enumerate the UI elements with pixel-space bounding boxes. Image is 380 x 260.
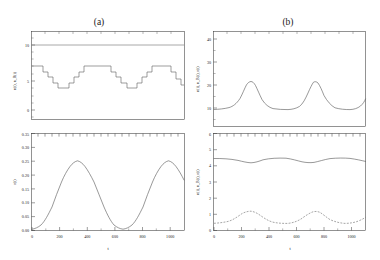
panel-a-bottom-ytick-4: 0.20	[22, 173, 29, 178]
panel-b-bottom-ytick-5: 5	[209, 147, 211, 152]
panel-a-bottom-yticks: 0.00 0.05 0.10 0.15 0.20 0.25 0.30 0.35	[22, 132, 35, 233]
panel-a-top-series-n	[32, 66, 184, 88]
panel-b-xtick-200: 200	[238, 234, 244, 239]
panel-b-bottom-ytick-6: 6	[209, 132, 211, 137]
panel-a-top-edge-ticks	[45, 32, 171, 35]
panel-a-bottom-series-r	[32, 161, 184, 229]
panel-b-bottom-series-upper	[214, 158, 366, 163]
panel-b-bottom-subplot: 0 1 2 3 4 5 6	[209, 132, 366, 239]
panel-b-bottom-ytick-0: 0	[209, 228, 211, 233]
panel-b-bottom-series-lower	[214, 211, 366, 223]
panel-a-bottom-ytick-7: 0.35	[22, 132, 29, 137]
panel-b-bottom-ytick-2: 2	[209, 196, 211, 201]
panel-a-top-ytick-0: 0	[27, 108, 29, 113]
panel-a-top-frame	[32, 32, 185, 120]
panel-a-top-ytick-5: 5	[27, 79, 29, 84]
panel-a-top-ytick-10: 10	[25, 43, 29, 48]
panel-a-bottom-ytick-2: 0.10	[22, 200, 29, 205]
multi-panel-plot: (a) 10 5 0	[0, 0, 380, 260]
panel-a-bottom-ytick-6: 0.30	[22, 145, 29, 150]
panel-b-xlabel: t	[289, 246, 291, 251]
panel-b-top-subplot: 40 30 20 10	[207, 32, 366, 127]
panel-b-top-series-n	[214, 82, 366, 110]
panel-b-xtick-600: 600	[293, 234, 299, 239]
panel-a-bottom-subplot: 0.00 0.05 0.10 0.15 0.20 0.25 0.30 0.35	[22, 132, 185, 239]
panel-a-bottom-top-edge-ticks	[38, 134, 178, 137]
panel-a-xtick-800: 800	[139, 234, 145, 239]
panel-a-bottom-xticks: 0 200 400 600 800 1000	[31, 227, 174, 239]
panel-b-top-ytick-40: 40	[207, 37, 211, 42]
panel-a-bottom-ylabel: r(t)	[12, 179, 17, 185]
panel-a-bottom-ytick-0: 0.00	[22, 228, 29, 233]
panel-b-top-frame	[214, 32, 366, 127]
panel-a-xtick-0: 0	[31, 234, 33, 239]
panel-b-bottom-ytick-3: 3	[209, 180, 211, 185]
panel-a-bottom-ytick-5: 0.25	[22, 159, 29, 164]
panel-b-top-edge-ticks	[227, 32, 353, 35]
panel-a-title: (a)	[94, 17, 105, 28]
panel-a-xtick-400: 400	[84, 234, 90, 239]
panel-b-bottom-ytick-4: 4	[209, 163, 211, 168]
panel-b-top-yticks: 40 30 20 10	[207, 37, 217, 120]
panel-b-title: (b)	[282, 17, 293, 28]
panel-b-bottom-ytick-1: 1	[209, 212, 211, 217]
panel-b-xtick-0: 0	[213, 234, 215, 239]
panel-b-top-ytick-20: 20	[207, 83, 211, 88]
panel-a-bottom-ytick-3: 0.15	[22, 187, 29, 192]
panel-b-bottom-ylabel: n(t), n_B(t), r(t)	[195, 169, 201, 195]
panel-a-top-subplot: 10 5 0	[25, 32, 185, 120]
panel-b-top-ytick-10: 10	[207, 106, 211, 111]
panel-a-xtick-600: 600	[112, 234, 118, 239]
panel-b-xtick-800: 800	[321, 234, 327, 239]
panel-a-top-ylabel: n(t), n_B(t)	[12, 71, 18, 90]
panel-b-bottom-yticks: 0 1 2 3 4 5 6	[209, 132, 217, 233]
panel-b-top-ytick-30: 30	[207, 60, 211, 65]
panel-b-bottom-xticks: 0 200 400 600 800 1000	[213, 227, 356, 239]
figure-container: (a) 10 5 0	[0, 0, 380, 260]
panel-a-bottom-ytick-1: 0.05	[22, 214, 29, 219]
panel-a-xtick-1000: 1000	[166, 234, 174, 239]
panel-a-top-yticks: 10 5 0	[25, 38, 35, 117]
panel-a-xtick-200: 200	[57, 234, 63, 239]
panel-b-bottom-top-edge-ticks	[220, 134, 360, 137]
panel-b-bottom-frame	[214, 134, 366, 231]
panel-b-xtick-1000: 1000	[347, 234, 355, 239]
panel-b-xtick-400: 400	[266, 234, 272, 239]
panel-a-xlabel: t	[107, 246, 109, 251]
scan-artifact	[3, 2, 21, 7]
panel-b-top-ylabel: n(t), n_B(t), r(t)	[195, 66, 201, 92]
